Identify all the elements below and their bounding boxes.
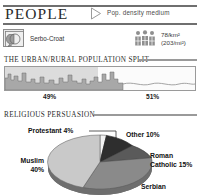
density-value-imperial: (203/mi²) bbox=[161, 39, 186, 47]
urban-percent-label: 49% bbox=[43, 93, 56, 100]
header-rule-bottom bbox=[3, 23, 197, 25]
urban-rural-rule bbox=[138, 59, 197, 61]
language-label: Serbo-Croat bbox=[30, 35, 64, 42]
people-panel: PEOPLE Pop. density medium Serbo-Croat bbox=[0, 0, 200, 195]
pie-label-roman-catholic: Roman Catholic 15% bbox=[150, 152, 192, 169]
rural-hill-line bbox=[123, 83, 195, 85]
page-title: PEOPLE bbox=[5, 5, 68, 23]
pie-label-muslim: Muslim 40% bbox=[8, 157, 44, 174]
religion-rule bbox=[94, 114, 197, 116]
pie-label-muslim-line1: Muslim bbox=[8, 157, 44, 166]
religion-section-title: RELIGIOUS PERSUASION bbox=[4, 111, 95, 119]
language-icon bbox=[3, 29, 24, 47]
people-group-icon bbox=[134, 30, 156, 47]
rural-percent-label: 51% bbox=[146, 93, 159, 100]
pie-label-protestant: Protestant 4% bbox=[28, 127, 73, 136]
density-value: 78/km² (203/mi²) bbox=[161, 31, 186, 47]
pie-label-muslim-line2: 40% bbox=[8, 166, 44, 175]
triangle-right-icon bbox=[90, 7, 102, 20]
urban-rural-illustration bbox=[5, 67, 195, 90]
density-note: Pop. density medium bbox=[107, 9, 170, 16]
pie-label-other: Other 10% bbox=[126, 131, 160, 140]
urban-rural-chart bbox=[4, 66, 196, 91]
pie-label-roman-catholic-line1: Roman bbox=[150, 152, 192, 161]
urban-rural-section-title: THE URBAN/RURAL POPULATION SPLIT bbox=[4, 56, 149, 64]
density-value-metric: 78/km² bbox=[161, 31, 186, 39]
pie-label-roman-catholic-line2: Catholic 15% bbox=[150, 161, 192, 170]
pie-label-serbian: Serbian bbox=[141, 183, 166, 192]
city-skyline-shape bbox=[5, 72, 123, 90]
